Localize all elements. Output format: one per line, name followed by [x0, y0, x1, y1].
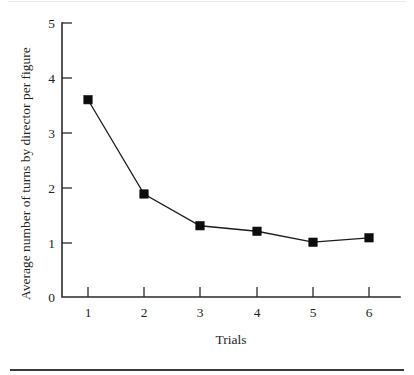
y-tick-label-3: 3	[48, 126, 55, 141]
y-tick-marks	[62, 23, 72, 243]
series-line	[88, 100, 369, 242]
x-tick-labels: 1 2 3 4 5 6	[85, 305, 373, 320]
chart-plot-area: Average number of turns by director per …	[0, 0, 414, 375]
y-tick-label-0: 0	[48, 290, 55, 305]
data-point-marker	[196, 222, 204, 230]
x-axis-title: Trials	[215, 332, 246, 347]
bottom-divider	[10, 369, 404, 371]
x-tick-label-3: 3	[197, 305, 204, 320]
y-tick-labels: 5 4 3 2 1 0	[48, 16, 55, 305]
x-tick-label-5: 5	[310, 305, 317, 320]
data-point-marker	[140, 190, 148, 198]
x-tick-label-4: 4	[254, 305, 261, 320]
y-tick-label-2: 2	[48, 181, 55, 196]
x-tick-marks	[88, 287, 369, 297]
axis-lines	[62, 23, 400, 297]
chart-page: Average number of turns by director per …	[0, 0, 414, 375]
data-point-marker	[365, 234, 373, 242]
y-tick-label-5: 5	[48, 16, 55, 31]
y-tick-label-1: 1	[48, 236, 55, 251]
y-axis-title: Average number of turns by director per …	[18, 47, 33, 300]
data-point-marker	[253, 227, 261, 235]
y-tick-label-4: 4	[48, 71, 55, 86]
data-point-marker	[84, 96, 92, 104]
x-tick-label-1: 1	[85, 305, 92, 320]
x-tick-label-6: 6	[366, 305, 373, 320]
x-tick-label-2: 2	[141, 305, 148, 320]
line-chart: Average number of turns by director per …	[0, 0, 414, 375]
series-markers	[84, 96, 373, 247]
data-point-marker	[309, 238, 317, 246]
